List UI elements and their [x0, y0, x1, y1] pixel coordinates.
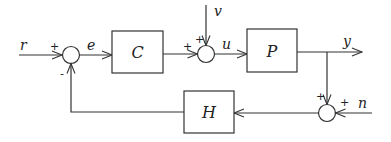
- summing-junction-1: [63, 47, 80, 64]
- sign-sum2-v: +: [195, 33, 204, 46]
- sign-sum2-c: +: [183, 40, 192, 53]
- summing-junction-3: [319, 105, 336, 122]
- sign-sum1-r: +: [50, 40, 59, 53]
- block-label-H: H: [201, 103, 217, 122]
- block-label-C: C: [131, 43, 143, 62]
- signal-label-v: v: [214, 3, 222, 19]
- signal-label-u: u: [222, 36, 231, 52]
- signal-sum3-to-h-path: [234, 109, 319, 117]
- sign-sum3-y: +: [316, 90, 325, 103]
- summing-junction-2: [198, 46, 215, 63]
- sign-sum3-n: +: [340, 96, 349, 109]
- signal-c-out-path: [163, 50, 198, 58]
- signal-y-path: [297, 48, 362, 56]
- signal-e-path: [80, 51, 113, 59]
- signal-label-r: r: [20, 37, 28, 53]
- signal-label-e: e: [87, 37, 95, 53]
- block-diagram: r + e C + v + u P y +: [0, 0, 391, 142]
- signal-label-y: y: [342, 33, 352, 49]
- block-label-P: P: [266, 42, 278, 61]
- signal-label-n: n: [358, 95, 367, 111]
- sign-sum1-feedback: -: [60, 67, 64, 80]
